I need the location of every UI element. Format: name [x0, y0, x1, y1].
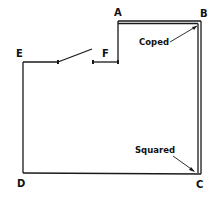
- point-d-label: D: [17, 179, 25, 189]
- coped-annotation: Coped: [139, 38, 169, 47]
- point-f-label: F: [102, 49, 109, 59]
- squared-annotation: Squared: [135, 146, 175, 155]
- point-b-label: B: [200, 9, 208, 19]
- tick-mark: [57, 60, 59, 64]
- point-a-label: A: [114, 8, 122, 18]
- point-c-label: C: [196, 180, 203, 190]
- tick-mark: [117, 60, 119, 64]
- tick-mark: [92, 60, 94, 64]
- coped-arrowhead-icon: [192, 26, 197, 30]
- wall-dc: [23, 173, 201, 174]
- door-swing-line: [58, 49, 92, 62]
- moulding-plan-drawing: [0, 0, 215, 199]
- point-e-label: E: [16, 49, 23, 59]
